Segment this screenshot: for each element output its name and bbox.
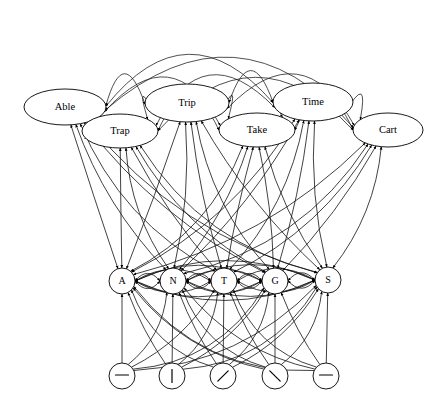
- word-node-trap[interactable]: Trap: [82, 114, 158, 148]
- letter-node-label: A: [118, 275, 126, 286]
- word-node-time[interactable]: Time: [273, 83, 353, 121]
- word-node-label: Able: [55, 101, 76, 112]
- word-node-cart[interactable]: Cart: [353, 113, 423, 147]
- feature-node-feat-horiz-1[interactable]: [109, 363, 135, 389]
- letter-node-letter-g[interactable]: G: [262, 268, 288, 294]
- letter-node-letter-s[interactable]: S: [315, 267, 341, 293]
- letter-node-letter-t[interactable]: T: [211, 268, 237, 294]
- word-node-label: Trap: [110, 125, 129, 136]
- word-node-label: Time: [302, 96, 324, 107]
- letter-node-label: G: [271, 275, 278, 286]
- letter-node-label: T: [221, 275, 227, 286]
- feature-node-feat-vert[interactable]: [159, 363, 185, 389]
- word-node-take[interactable]: Take: [219, 113, 295, 147]
- feature-node-circle: [313, 363, 339, 389]
- feature-node-feat-slash[interactable]: [210, 363, 236, 389]
- word-node-trip[interactable]: Trip: [145, 84, 229, 122]
- word-node-label: Take: [247, 124, 268, 135]
- feature-node-feat-horiz-2[interactable]: [313, 363, 339, 389]
- letter-node-label: S: [325, 274, 331, 285]
- network-diagram: AbleTrapTripTakeTimeCartANTGS: [0, 0, 427, 395]
- word-node-label: Cart: [379, 124, 397, 135]
- feature-to-letter-edges: [122, 285, 328, 370]
- feature-node-feat-backslash[interactable]: [262, 363, 288, 389]
- letter-node-label: N: [169, 275, 176, 286]
- feature-node-circle: [109, 363, 135, 389]
- letter-node-letter-n[interactable]: N: [160, 268, 186, 294]
- network-canvas: AbleTrapTripTakeTimeCartANTGS: [0, 0, 427, 395]
- letter-node-letter-a[interactable]: A: [109, 268, 135, 294]
- word-node-label: Trip: [178, 97, 196, 108]
